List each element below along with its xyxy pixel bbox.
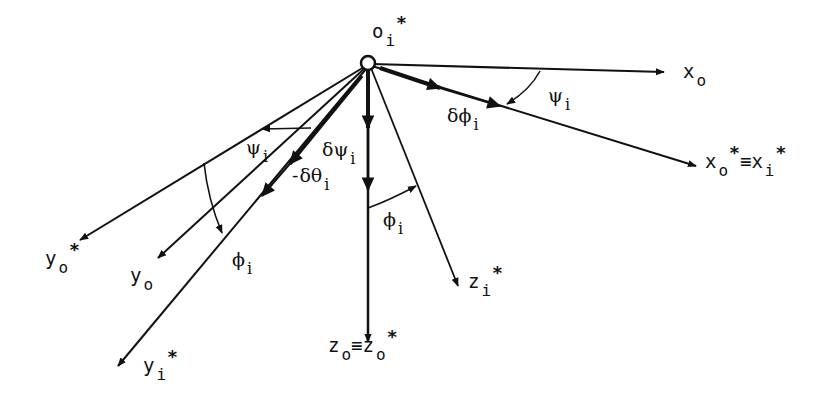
coordinate-frame-diagram — [0, 0, 832, 402]
label-angle-psi-upper: ψi — [548, 86, 570, 105]
arc-phi-mid — [368, 186, 416, 208]
label-y-i-star: yi* — [143, 356, 178, 375]
label-angle-phi-left: ϕi — [232, 250, 252, 269]
origin-point — [361, 56, 375, 70]
label-y-o: yo — [130, 266, 153, 285]
label-angle-delta-psi: δψi — [322, 140, 355, 159]
axis-y-o — [158, 68, 365, 258]
label-angle-psi-left: ψi — [246, 138, 268, 157]
axis-z-i-star — [371, 68, 458, 286]
label-y-o-star: yo* — [45, 249, 80, 268]
label-angle-delta-theta: -δθi — [292, 166, 329, 185]
label-z-i-star: zi* — [468, 272, 503, 291]
arc-psi-upper — [507, 71, 540, 104]
axis-y-i-star — [118, 69, 366, 366]
label-x-o: xo — [683, 62, 706, 81]
axis-x-o — [372, 64, 664, 72]
label-z-o-equiv-z-o-star: zo≡zo* — [328, 336, 397, 355]
label-angle-delta-phi: δϕi — [447, 106, 479, 125]
label-angle-phi-mid: ϕi — [383, 210, 403, 229]
arc-phi-left — [204, 163, 222, 233]
label-x-o-star-equiv-x-i-star: xo*≡xi* — [705, 152, 786, 171]
label-origin: oi* — [372, 22, 407, 41]
arc-psi-left — [262, 128, 311, 129]
